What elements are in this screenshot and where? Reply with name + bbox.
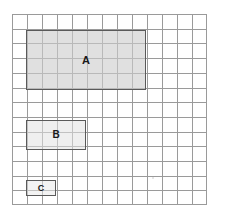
rectangle-b[interactable]: B xyxy=(26,120,86,150)
rectangle-b-label: B xyxy=(52,130,59,140)
rectangle-a-label: A xyxy=(82,55,90,66)
figure-canvas: A B C xyxy=(0,0,225,224)
rectangle-a[interactable]: A xyxy=(26,30,146,90)
scan-artifact-speck xyxy=(152,177,154,179)
rectangle-c[interactable]: C xyxy=(26,180,56,196)
rectangle-c-label: C xyxy=(38,184,45,193)
